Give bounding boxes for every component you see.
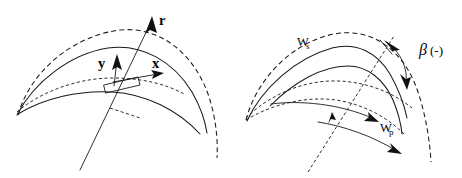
left-radial-axis-line: [80, 22, 151, 170]
left-upper-solid-arc: [17, 47, 207, 133]
left-outer-dashed-arc: [18, 30, 217, 158]
right-panel: W s W p β (-): [246, 33, 443, 172]
ws-vector-line: [271, 103, 372, 118]
r-arrowhead-icon: [145, 16, 157, 34]
figure-root: r x y: [0, 0, 462, 178]
label-y: y: [98, 55, 106, 71]
wp-arrowhead-icon: [387, 143, 402, 154]
left-short-dashed-tangent: [110, 108, 140, 118]
label-ws-subscript: s: [306, 41, 310, 51]
radial-mid-arrowhead-icon: [328, 112, 336, 124]
label-wp-group: W p: [380, 121, 394, 137]
y-arrowhead-icon: [112, 54, 122, 70]
left-inner-dashed-arc: [17, 78, 184, 112]
label-r: r: [159, 12, 166, 28]
label-beta-suffix: (-): [430, 43, 443, 58]
left-panel: r x y: [17, 12, 217, 170]
label-x: x: [152, 55, 160, 71]
left-lower-solid-arc: [18, 92, 200, 134]
label-wp-subscript: p: [389, 127, 394, 137]
diagram-canvas: r x y: [0, 0, 462, 178]
label-beta-symbol: β: [418, 41, 427, 59]
label-ws-group: W s: [297, 35, 310, 51]
label-beta-group: β (-): [418, 41, 443, 59]
beta-arc-arrowhead-bottom-icon: [400, 74, 411, 90]
